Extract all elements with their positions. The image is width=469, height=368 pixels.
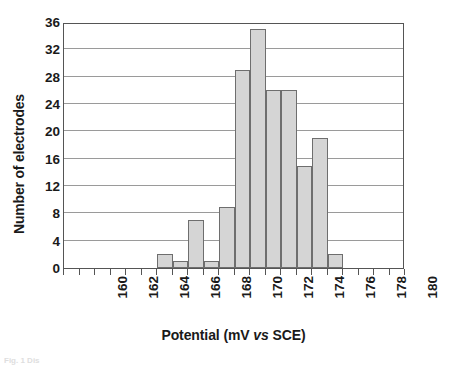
x-tick — [311, 269, 312, 275]
x-tick-label: 166 — [209, 276, 223, 320]
x-tick-label: 180 — [426, 276, 440, 320]
y-axis-tick-labels: 04812162024283236 — [12, 0, 60, 368]
x-tick — [187, 269, 188, 275]
x-axis-title-after: SCE) — [269, 327, 306, 343]
x-axis-tick-labels: 160162164166168170172174176178180 — [63, 276, 404, 320]
x-tick — [94, 269, 95, 275]
x-tick-label: 176 — [364, 276, 378, 320]
x-tick-label: 170 — [271, 276, 285, 320]
x-axis-title-before: Potential (mV — [161, 327, 253, 343]
plot-area — [63, 23, 404, 269]
bar — [188, 220, 204, 268]
y-tick-label: 32 — [20, 43, 60, 56]
x-tick — [373, 269, 374, 275]
x-tick — [141, 269, 142, 275]
bar — [157, 254, 173, 268]
x-axis-title-vs: vs — [253, 327, 268, 343]
caption-fragment: Fig. 1 Dis — [4, 356, 40, 365]
y-tick-label: 20 — [20, 125, 60, 138]
x-tick — [234, 269, 235, 275]
x-tick-label: 160 — [116, 276, 130, 320]
bar — [235, 70, 251, 268]
bar — [281, 90, 297, 268]
x-tick-label: 164 — [178, 276, 192, 320]
bar — [204, 261, 220, 268]
x-tick — [125, 269, 126, 275]
x-tick — [327, 269, 328, 275]
x-tick — [63, 269, 64, 275]
x-tick — [218, 269, 219, 275]
y-tick-label: 16 — [20, 153, 60, 166]
y-tick-label: 12 — [20, 180, 60, 193]
x-axis-ticks — [63, 269, 404, 276]
x-tick — [79, 269, 80, 275]
x-tick — [342, 269, 343, 275]
x-tick — [172, 269, 173, 275]
x-axis-title: Potential (mV vs SCE) — [63, 327, 404, 343]
bar — [173, 261, 189, 268]
bar — [328, 254, 344, 268]
x-tick — [358, 269, 359, 275]
x-tick — [404, 269, 405, 275]
bar — [266, 90, 282, 268]
x-tick-label: 172 — [302, 276, 316, 320]
y-tick-label: 0 — [20, 262, 60, 275]
x-tick — [156, 269, 157, 275]
y-tick-label: 36 — [20, 16, 60, 29]
bar — [219, 207, 235, 269]
bar — [250, 29, 266, 268]
y-tick-label: 28 — [20, 71, 60, 84]
bar — [297, 166, 313, 269]
x-tick — [249, 269, 250, 275]
x-tick — [265, 269, 266, 275]
y-tick-label: 8 — [20, 207, 60, 220]
x-tick — [296, 269, 297, 275]
x-tick-label: 168 — [240, 276, 254, 320]
x-tick-label: 178 — [395, 276, 409, 320]
x-tick — [203, 269, 204, 275]
bar-series — [64, 24, 403, 268]
histogram-figure: Number of electrodes 04812162024283236 1… — [0, 0, 469, 368]
y-tick-label: 24 — [20, 98, 60, 111]
x-tick — [389, 269, 390, 275]
bar — [312, 138, 328, 268]
x-tick — [280, 269, 281, 275]
y-tick-label: 4 — [20, 235, 60, 248]
x-tick-label: 162 — [147, 276, 161, 320]
x-tick — [110, 269, 111, 275]
x-tick-label: 174 — [333, 276, 347, 320]
